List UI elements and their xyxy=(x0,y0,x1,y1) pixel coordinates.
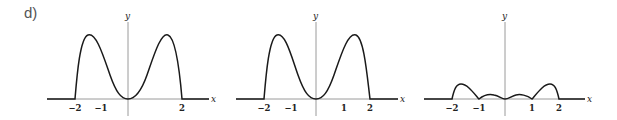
tick-label: −1 xyxy=(284,103,297,113)
tick-label: −1 xyxy=(472,103,485,113)
y-axis-label: y xyxy=(124,11,131,21)
tick-label: 2 xyxy=(367,103,373,113)
graph-1: x y −2 −1 2 xyxy=(47,11,216,116)
graph-2: x y −2 −1 1 2 xyxy=(236,11,405,116)
x-axis-label: x xyxy=(400,94,405,104)
tick-label: 2 xyxy=(556,103,562,113)
x-axis-label: x xyxy=(211,94,216,104)
tick-label: 1 xyxy=(341,103,347,113)
function-curve xyxy=(236,35,398,99)
x-axis-label: x xyxy=(587,94,592,104)
tick-label: 1 xyxy=(529,103,535,113)
y-axis-label: y xyxy=(312,11,319,21)
tick-label: −1 xyxy=(94,103,107,113)
tick-label: −2 xyxy=(257,103,270,113)
tick-label: −2 xyxy=(68,103,81,113)
graph-3: x y −2 −1 1 2 xyxy=(424,11,592,116)
tick-label: −2 xyxy=(445,103,458,113)
tick-label: 2 xyxy=(179,103,185,113)
figure-canvas: x y −2 −1 2 x y −2 −1 1 2 x y −2 −1 1 2 xyxy=(0,0,617,120)
y-axis-label: y xyxy=(501,11,508,21)
